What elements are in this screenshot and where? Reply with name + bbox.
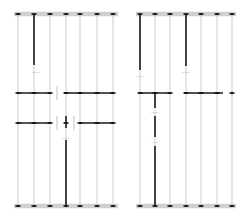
panel-right-node-dot[interactable] [216, 13, 218, 15]
panel-right-node-dot[interactable] [139, 205, 141, 207]
panel-right-node-dot[interactable] [185, 13, 187, 15]
panel-left-node-dot[interactable] [65, 122, 67, 124]
panel-left-node-dot[interactable] [79, 205, 81, 207]
diagram-canvas: —————————————————— [0, 0, 249, 223]
panel-left-node-dot[interactable] [65, 205, 67, 207]
panel-right-node-dot[interactable] [185, 92, 187, 94]
panel-left-node-dot[interactable] [65, 92, 67, 94]
panel-left-node-dot[interactable] [33, 122, 35, 124]
diagram-vector-layer [0, 0, 249, 223]
panel-left-node-dot[interactable] [112, 13, 114, 15]
panel-left-label-LL1: ——— [32, 72, 40, 75]
panel-right-node-dot[interactable] [185, 205, 187, 207]
panel-left-node-dot[interactable] [33, 13, 35, 15]
panel-left-node-dot[interactable] [49, 122, 51, 124]
panel-right-node-dot[interactable] [231, 92, 233, 94]
panel-left-node-dot[interactable] [96, 13, 98, 15]
panel-left-node-dot[interactable] [17, 122, 19, 124]
panel-right-node-dot[interactable] [139, 92, 141, 94]
panel-left-node-dot[interactable] [79, 92, 81, 94]
panel-left-node-dot[interactable] [49, 13, 51, 15]
panel-right-node-dot[interactable] [216, 92, 218, 94]
panel-right-label-RL2: ——— [182, 72, 190, 75]
panel-left-node-dot[interactable] [96, 205, 98, 207]
right-panel [136, 12, 236, 209]
panel-left-node-dot[interactable] [96, 92, 98, 94]
panel-right-node-dot[interactable] [169, 205, 171, 207]
panel-left-node-dot[interactable] [17, 92, 19, 94]
panel-right-node-dot[interactable] [169, 13, 171, 15]
panel-right-node-dot[interactable] [231, 205, 233, 207]
panel-right-node-dot[interactable] [200, 13, 202, 15]
panel-left-node-dot[interactable] [112, 122, 114, 124]
left-panel [14, 12, 118, 209]
panel-left-node-dot[interactable] [17, 13, 19, 15]
panel-right-node-dot[interactable] [154, 13, 156, 15]
panel-left-node-dot[interactable] [79, 122, 81, 124]
panel-left-label-LL2: ——— [62, 138, 70, 141]
panel-right-node-dot[interactable] [139, 13, 141, 15]
panel-right-label-RL3: ——— [151, 112, 159, 115]
panel-left-node-dot[interactable] [79, 13, 81, 15]
panel-left-node-dot[interactable] [65, 13, 67, 15]
panel-left-node-dot[interactable] [49, 205, 51, 207]
panel-right-node-dot[interactable] [154, 205, 156, 207]
panel-right-label-RL1: ——— [136, 76, 144, 79]
panel-right-node-dot[interactable] [231, 13, 233, 15]
panel-left-node-dot[interactable] [49, 92, 51, 94]
panel-right-node-dot[interactable] [154, 92, 156, 94]
panel-right-node-dot[interactable] [200, 92, 202, 94]
panel-right-node-dot[interactable] [169, 92, 171, 94]
panel-left-node-dot[interactable] [33, 92, 35, 94]
panel-left-node-dot[interactable] [17, 205, 19, 207]
panel-right-label-RL4: ——— [151, 142, 159, 145]
panel-left-node-dot[interactable] [33, 205, 35, 207]
panel-right-node-dot[interactable] [216, 205, 218, 207]
panel-left-node-dot[interactable] [112, 92, 114, 94]
panel-left-node-dot[interactable] [96, 122, 98, 124]
panel-right-node-dot[interactable] [200, 205, 202, 207]
panel-left-node-dot[interactable] [112, 205, 114, 207]
